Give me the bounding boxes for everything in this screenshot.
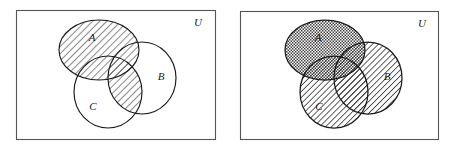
set-B-label: B xyxy=(158,70,165,82)
set-C-label: C xyxy=(89,100,97,112)
set-A-label: A xyxy=(88,31,96,43)
universe-label: U xyxy=(418,17,427,29)
venn-diagram-left-panel: A B C U xyxy=(0,0,226,150)
venn-diagram-figure: A B C U xyxy=(0,0,452,150)
set-B-label: B xyxy=(384,70,391,82)
set-C-label: C xyxy=(315,100,323,112)
venn-diagram-right-panel: A B C U xyxy=(226,0,452,150)
universe-label: U xyxy=(194,16,203,28)
set-A-label: A xyxy=(314,31,322,43)
